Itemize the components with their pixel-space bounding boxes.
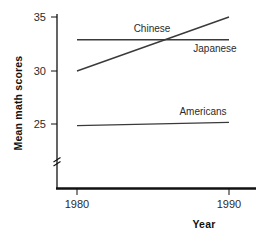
series-line-americans [77,122,229,125]
x-tick-label-1990: 1990 [217,198,241,210]
line-chart: 35 30 25 1980 1990 Year Mean math scores… [0,0,275,238]
y-tick-label-25: 25 [34,118,46,130]
chart-container: 35 30 25 1980 1990 Year Mean math scores… [0,0,275,238]
series-label-chinese: Chinese [134,23,171,34]
y-tick-label-35: 35 [34,11,46,23]
series-label-japanese: Japanese [193,43,237,54]
y-axis-title: Mean math scores [12,56,24,151]
x-tick-label-1980: 1980 [65,198,89,210]
x-axis-title: Year [193,218,216,230]
series-label-americans: Americans [179,106,226,117]
y-tick-label-30: 30 [34,65,46,77]
